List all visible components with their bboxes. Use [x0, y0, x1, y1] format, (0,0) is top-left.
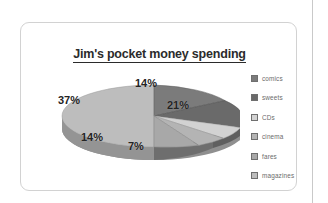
legend-label: comics: [262, 75, 283, 82]
chart-legend: comics sweets CDs cinema fares magazines: [251, 71, 313, 188]
legend-swatch-icon: [251, 133, 258, 140]
chart-frame: Jim's pocket money spending: [20, 22, 297, 191]
legend-item-fares[interactable]: fares: [251, 149, 313, 163]
slice-label-cinema: 7%: [128, 140, 144, 152]
legend-item-sweets[interactable]: sweets: [251, 91, 313, 105]
legend-label: CDs: [262, 114, 275, 121]
legend-swatch-icon: [251, 94, 258, 101]
legend-label: fares: [262, 153, 277, 160]
legend-label: cinema: [262, 133, 284, 140]
legend-item-magazines[interactable]: magazines: [251, 169, 313, 183]
legend-label: sweets: [262, 94, 283, 101]
legend-swatch-icon: [251, 153, 258, 160]
slice-label-comics: 14%: [135, 77, 157, 89]
legend-swatch-icon: [251, 75, 258, 82]
legend-label: magazines: [262, 172, 294, 179]
legend-item-cds[interactable]: CDs: [251, 110, 313, 124]
legend-item-comics[interactable]: comics: [251, 71, 313, 85]
slice-label-magazines: 37%: [58, 94, 80, 106]
pie-chart: 14% 21% 7% 14% 37%: [27, 55, 240, 175]
legend-swatch-icon: [251, 114, 258, 121]
legend-item-cinema[interactable]: cinema: [251, 130, 313, 144]
legend-swatch-icon: [251, 172, 258, 179]
pie-chart-svg: [27, 55, 240, 175]
slice-label-sweets: 21%: [167, 99, 189, 111]
slice-label-fares: 14%: [81, 131, 103, 143]
